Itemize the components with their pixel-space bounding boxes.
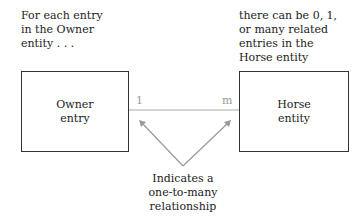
owner-note: For each entry in the Owner entity . . .: [21, 9, 103, 51]
horse-note-line: or many related: [239, 23, 337, 37]
relationship-note-line: Indicates a: [133, 172, 233, 186]
horse-note-line: Horse entity: [239, 51, 337, 65]
owner-note-line: in the Owner: [21, 23, 103, 37]
pointer-arrow-left: [142, 123, 183, 166]
owner-note-line: entity . . .: [21, 37, 103, 51]
relationship-note-line: one-to-many: [133, 186, 233, 200]
cardinality-one: 1: [136, 94, 143, 107]
horse-note: there can be 0, 1, or many related entri…: [239, 9, 337, 65]
relationship-note: Indicates a one-to-many relationship: [133, 172, 233, 214]
pointer-arrow-right: [183, 123, 228, 166]
relationship-note-line: relationship: [133, 200, 233, 214]
owner-entity-box: Owner entry: [21, 71, 129, 152]
cardinality-many: m: [222, 94, 232, 107]
horse-note-line: there can be 0, 1,: [239, 9, 337, 23]
horse-entity-label: entity: [277, 112, 311, 126]
horse-entity-label: Horse: [277, 98, 311, 112]
horse-entity-box: Horse entity: [239, 71, 349, 152]
owner-note-line: For each entry: [21, 9, 103, 23]
owner-entity-label: Owner: [56, 98, 93, 112]
owner-entity-label: entry: [56, 112, 93, 126]
horse-note-line: entries in the: [239, 37, 337, 51]
